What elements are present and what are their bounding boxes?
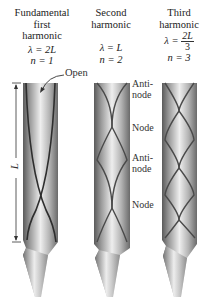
tube-fundamental <box>23 83 58 297</box>
side-label-node-2: Node <box>132 200 154 211</box>
harmonics-diagram <box>0 0 206 308</box>
open-label: Open <box>65 68 88 79</box>
side-label-antinode-2: Anti- node <box>132 153 153 174</box>
tube-third <box>162 83 197 297</box>
side-label-node-1: Node <box>132 123 154 134</box>
tube-second <box>94 83 130 297</box>
length-label: L <box>9 163 20 169</box>
side-label-antinode-1: Anti- node <box>132 79 153 100</box>
